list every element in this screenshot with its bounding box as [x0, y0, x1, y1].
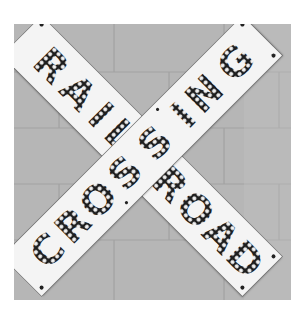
svg-text:S: S [128, 117, 181, 170]
photograph: R A I L R O A D [14, 24, 291, 300]
